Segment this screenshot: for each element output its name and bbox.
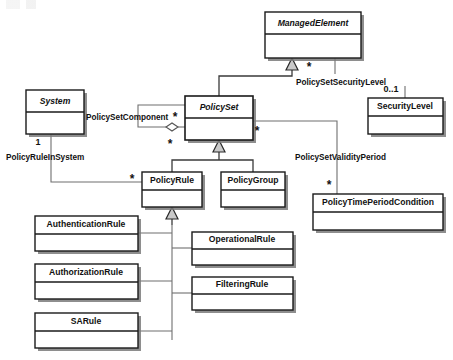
association-label-policy-set-component: PolicySetComponent [86,113,169,122]
class-name-filtering-rule: FilteringRule [216,279,269,289]
diagram-canvas: ManagedElement SecurityLevel System [0,0,453,360]
class-policy-time-period-condition[interactable]: PolicyTimePeriodCondition [313,194,446,233]
class-security-level[interactable]: SecurityLevel [368,98,446,137]
multiplicity-policy-set-validity-star: * [255,124,260,138]
class-filtering-rule[interactable]: FilteringRule [192,277,296,313]
class-name-system: System [40,96,71,106]
class-name-managed-element: ManagedElement [278,18,350,28]
multiplicity-policy-set-component-top-star: * [173,110,178,124]
generalization-policyrule-children [138,207,192,340]
class-policy-set[interactable]: PolicySet [185,96,256,143]
class-authentication-rule[interactable]: AuthenticationRule [35,216,141,254]
class-name-policy-group: PolicyGroup [227,175,278,185]
class-operational-rule[interactable]: OperationalRule [192,232,296,268]
multiplicity-managed-element-star: * [307,60,312,74]
association-label-policy-rule-in-system: PolicyRuleInSystem [6,153,84,162]
class-managed-element[interactable]: ManagedElement [265,12,364,61]
class-sa-rule[interactable]: SARule [35,313,141,351]
class-name-operational-rule: OperationalRule [209,234,276,244]
multiplicity-policy-time-period-star: * [327,178,332,192]
class-policy-rule[interactable]: PolicyRule [142,172,205,210]
class-name-sa-rule: SARule [71,316,102,326]
class-name-policy-time-period-condition: PolicyTimePeriodCondition [322,197,434,207]
class-name-authentication-rule: AuthenticationRule [47,219,126,229]
multiplicity-policy-rule-star: * [130,172,135,186]
class-authorization-rule[interactable]: AuthorizationRule [35,264,141,302]
class-name-authorization-rule: AuthorizationRule [49,267,123,277]
class-name-policy-set: PolicySet [200,102,240,112]
class-policy-group[interactable]: PolicyGroup [221,172,288,210]
class-system[interactable]: System [26,90,87,137]
uml-class-diagram: ManagedElement SecurityLevel System [0,0,453,360]
multiplicity-security-level-0-1: 0..1 [383,84,398,94]
class-name-security-level: SecurityLevel [377,101,433,111]
generalization-policyset-managedelement [219,58,298,96]
association-label-policy-set-validity-period: PolicySetValidityPeriod [295,153,386,162]
multiplicity-system-one: 1 [35,137,40,147]
generalization-policyset-children [172,140,253,172]
multiplicity-policy-set-component-bottom-star: * [168,137,173,151]
class-name-policy-rule: PolicyRule [150,175,194,185]
association-label-policy-set-security-level: PolicySetSecurityLevel [296,78,386,87]
